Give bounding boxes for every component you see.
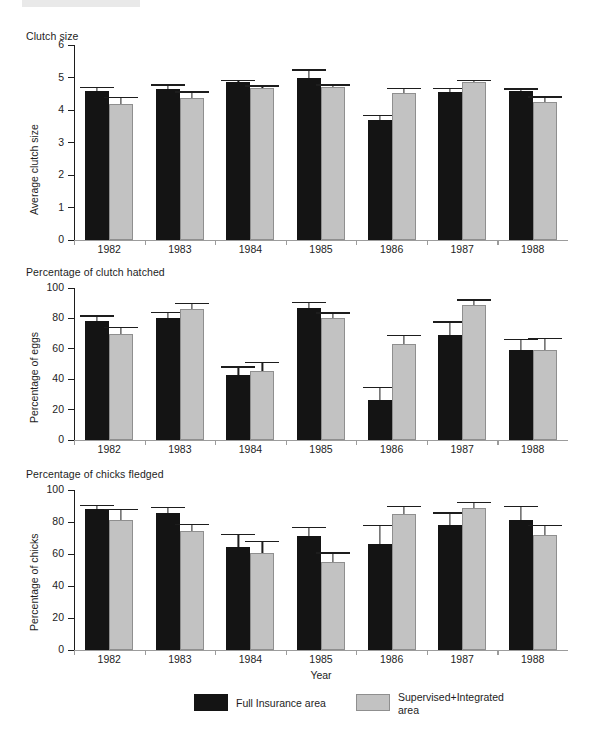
- error-stem: [544, 525, 545, 535]
- bar-1984-series1: [226, 547, 250, 650]
- y-tick: [68, 618, 74, 619]
- bar-1987-series2: [462, 508, 486, 650]
- error-stem: [191, 524, 192, 531]
- error-bar-1983-series1: [151, 507, 185, 513]
- error-bar-1985-series1: [292, 527, 326, 537]
- x-tick-label-1988: 1988: [503, 653, 563, 665]
- error-bar-1987-series2: [457, 502, 491, 508]
- bar-1984-series2: [250, 553, 274, 650]
- y-tick: [68, 522, 74, 523]
- figure-root: Clutch sizeAverage clutch size0123456198…: [0, 0, 592, 731]
- error-stem: [332, 552, 333, 562]
- bar-1986-series2: [392, 514, 416, 650]
- chart-panel-3: Percentage of chicks fledgedPercentage o…: [0, 0, 592, 731]
- x-tick-label-1984: 1984: [220, 653, 280, 665]
- x-tick: [215, 650, 216, 655]
- x-tick-label-1985: 1985: [291, 653, 351, 665]
- error-bar-1988-series2: [528, 525, 562, 535]
- y-tick-label: 80: [30, 515, 64, 527]
- panel-title: Percentage of chicks fledged: [26, 468, 164, 480]
- x-tick-label-1982: 1982: [79, 653, 139, 665]
- y-tick-label: 100: [30, 483, 64, 495]
- error-bar-1986-series2: [387, 506, 421, 514]
- y-tick-label: 40: [30, 579, 64, 591]
- x-tick: [145, 650, 146, 655]
- error-bar-1988-series1: [504, 506, 538, 520]
- error-bar-1982-series2: [104, 509, 138, 520]
- x-tick: [286, 650, 287, 655]
- bar-1987-series1: [438, 525, 462, 650]
- error-stem: [403, 506, 404, 514]
- figure-legend: Full Insurance areaSupervised+Integrated…: [0, 0, 592, 40]
- y-tick-label: 0: [30, 643, 64, 655]
- x-tick-label-1987: 1987: [432, 653, 492, 665]
- bar-1986-series1: [368, 544, 392, 650]
- error-bar-1984-series2: [245, 541, 279, 553]
- error-stem: [167, 507, 168, 513]
- error-stem: [520, 506, 521, 520]
- error-stem: [379, 525, 380, 544]
- plot-area: 020406080100: [74, 490, 568, 650]
- x-tick: [427, 650, 428, 655]
- x-tick: [497, 650, 498, 655]
- bar-1988-series1: [509, 520, 533, 650]
- x-axis-line: [74, 650, 568, 651]
- y-tick: [68, 554, 74, 555]
- bar-1983-series1: [156, 513, 180, 650]
- x-tick: [74, 650, 75, 655]
- y-tick-label: 20: [30, 611, 64, 623]
- bar-1985-series2: [321, 562, 345, 650]
- legend-label-2: Supervised+Integrated area: [398, 691, 548, 716]
- error-stem: [97, 505, 98, 509]
- x-tick-label-1983: 1983: [150, 653, 210, 665]
- error-bar-1983-series2: [175, 524, 209, 531]
- error-stem: [262, 541, 263, 553]
- y-tick: [68, 586, 74, 587]
- bar-1983-series2: [180, 531, 204, 650]
- x-tick: [356, 650, 357, 655]
- y-tick: [68, 490, 74, 491]
- y-axis-line: [74, 490, 75, 650]
- error-stem: [474, 502, 475, 508]
- bar-1982-series1: [85, 509, 109, 650]
- legend-light-swatch: [356, 694, 390, 711]
- x-tick-label-1986: 1986: [362, 653, 422, 665]
- error-bar-1985-series2: [316, 552, 350, 562]
- bar-1982-series2: [109, 520, 133, 650]
- bar-1988-series2: [533, 535, 557, 650]
- y-tick-label: 60: [30, 547, 64, 559]
- error-stem: [308, 527, 309, 537]
- error-stem: [238, 534, 239, 547]
- error-stem: [450, 512, 451, 525]
- x-axis-title: Year: [281, 669, 361, 681]
- legend-dark-swatch: [194, 694, 228, 711]
- error-stem: [121, 509, 122, 520]
